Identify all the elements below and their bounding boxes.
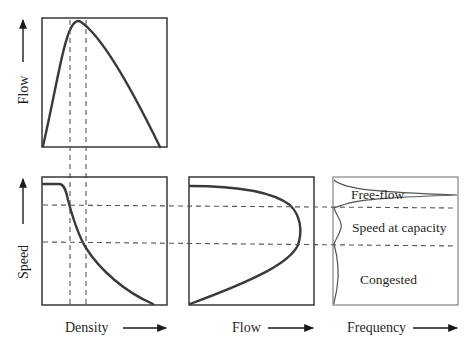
flow-axis-label: Flow (16, 75, 31, 105)
speed-frequency-panel: Free-flow Speed at capacity Congested (333, 177, 458, 305)
speed-axis-label-group: Speed (16, 179, 31, 279)
speed-density-curve (43, 184, 153, 304)
speed-flow-frame (189, 177, 314, 305)
capacity-speed-line (43, 242, 457, 246)
flow-axis-label-group: Flow (16, 20, 31, 104)
speed-density-panel (42, 177, 167, 305)
flow-density-curve (43, 21, 160, 147)
capacity-distribution-curve (334, 208, 341, 244)
free-flow-label: Free-flow (351, 187, 404, 202)
speed-flow-curve (190, 186, 300, 304)
frequency-axis-label: Frequency (347, 320, 406, 335)
density-axis-label: Density (65, 320, 109, 335)
flow-density-panel (42, 18, 167, 147)
flow-x-axis-label: Flow (232, 320, 262, 335)
free-flow-speed-line (43, 205, 457, 208)
speed-axis-label: Speed (16, 245, 31, 279)
density-axis-label-group: Density (65, 320, 166, 335)
traffic-fundamental-diagram: Flow Speed Free-flow Speed at capacity C… (0, 0, 476, 351)
frequency-axis-label-group: Frequency (347, 320, 457, 335)
speed-density-frame (42, 177, 167, 305)
speed-flow-panel (189, 177, 314, 305)
flow-x-axis-label-group: Flow (232, 320, 313, 335)
flow-density-frame (42, 18, 167, 147)
congested-distribution-curve (334, 244, 338, 304)
speed-at-capacity-label: Speed at capacity (352, 220, 447, 235)
congested-label: Congested (360, 272, 417, 287)
